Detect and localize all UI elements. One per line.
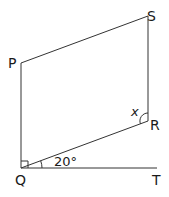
label-P: P — [8, 55, 16, 71]
label-S: S — [147, 8, 156, 24]
geometry-diagram: P S R Q T 20° x — [0, 0, 169, 197]
label-Q: Q — [15, 172, 26, 188]
label-T: T — [151, 172, 161, 188]
edge-RQ — [21, 121, 148, 168]
angle-arc-20 — [41, 161, 42, 168]
label-R: R — [150, 117, 160, 133]
diagram-canvas: P S R Q T 20° x — [0, 0, 169, 197]
angle-label-x: x — [130, 104, 139, 119]
edge-PS — [21, 16, 148, 63]
angle-label-20: 20° — [54, 154, 77, 169]
